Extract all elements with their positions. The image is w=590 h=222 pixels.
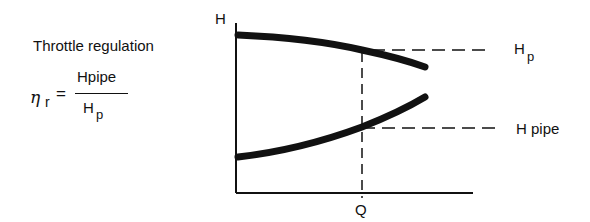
pipe-curve	[238, 97, 425, 157]
y-axis-label: H	[215, 10, 226, 27]
hp-label: H	[514, 40, 525, 57]
hpipe-label: H pipe	[516, 120, 559, 137]
hp-label-subscript: p	[527, 49, 534, 64]
x-axis-label: Q	[355, 201, 367, 218]
pump-system-diagram	[0, 0, 590, 222]
pump-curve	[238, 35, 425, 67]
